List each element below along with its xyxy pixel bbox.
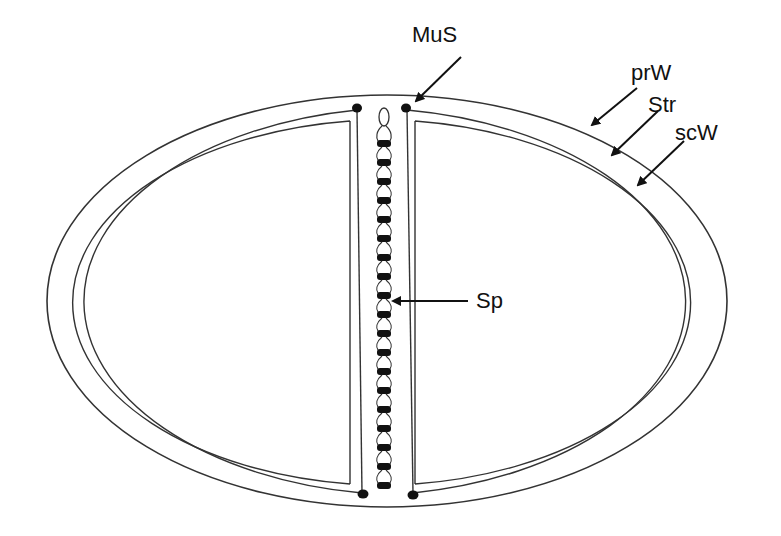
- dot-bottom-left: [358, 490, 369, 499]
- septum-chain: [377, 108, 391, 489]
- label-scw: scW: [675, 122, 718, 144]
- label-str: Str: [648, 94, 676, 116]
- label-sp: Sp: [476, 290, 503, 312]
- label-prw: prW: [631, 62, 671, 84]
- label-mus: MuS: [412, 24, 457, 46]
- prw-arrow: [592, 88, 637, 125]
- mus-arrow: [416, 57, 461, 101]
- dot-top-left: [352, 104, 362, 113]
- left-compartment: [73, 110, 362, 493]
- str-arrow: [612, 111, 658, 155]
- dot-top-right: [401, 104, 411, 113]
- dot-bottom-right: [408, 491, 419, 500]
